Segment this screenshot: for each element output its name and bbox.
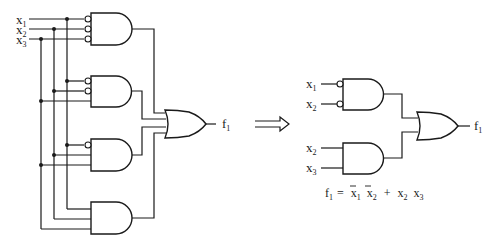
and-gate-4 [91, 202, 132, 234]
and-gate-2 [85, 76, 131, 107]
or-gate [165, 110, 206, 138]
and-gate-r1 [337, 79, 384, 110]
wire-g2-out [131, 91, 166, 119]
junction-dot [65, 17, 69, 21]
junction-dot [65, 143, 69, 147]
boolean-equation: f1= x1 x2 + x2 x3 [325, 186, 424, 203]
input-label-x3: x3 [306, 160, 317, 177]
wire-r2-out [383, 132, 418, 158]
output-label-f1: f1 [474, 118, 482, 135]
junction-dot [65, 79, 69, 83]
svg-text:f1= x1 x2: f1= x1 x2 + x2 x3 [325, 186, 424, 203]
and-gate-3 [85, 139, 132, 171]
junction-dot [39, 37, 43, 41]
and-gate-1 [85, 13, 132, 45]
wire-g3-out [132, 127, 166, 155]
left-circuit: x1 x2 x3 [16, 12, 230, 234]
junction-dot [52, 27, 56, 31]
output-label-f1: f1 [222, 116, 230, 133]
input-label-x2: x2 [306, 96, 317, 113]
junction-dot [52, 153, 56, 157]
junction-dot [52, 89, 56, 93]
input-label-x2: x2 [306, 140, 317, 157]
right-circuit: x1 x2 x2 x3 f1 f1= x1 x2 [306, 76, 482, 203]
wire-g4-out [132, 133, 166, 218]
junction-dot [39, 163, 43, 167]
implies-arrow-icon [255, 117, 289, 131]
or-gate-r [417, 112, 458, 140]
wire-g1-out [132, 29, 165, 113]
wire-r1-out [383, 94, 418, 118]
and-gate-r2 [343, 143, 384, 174]
input-label-x1: x1 [306, 76, 317, 93]
circuit-diagram: x1 x2 x3 [0, 0, 494, 249]
junction-dot [39, 99, 43, 103]
